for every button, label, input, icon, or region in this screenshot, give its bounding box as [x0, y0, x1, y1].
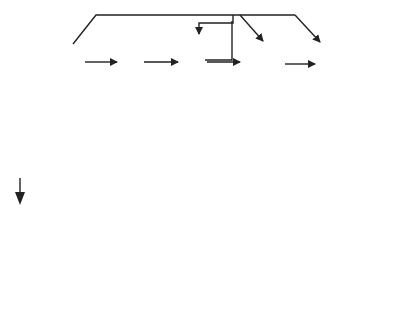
hippocampus-diagram: [0, 0, 394, 324]
connections: [73, 15, 320, 64]
left-axis: [15, 178, 25, 205]
auto-assoc-loop: [205, 21, 232, 60]
ec-to-ec4-arrow: [295, 15, 320, 42]
ec-to-ca3-arrow: [199, 15, 233, 34]
ec-to-ca1-arrow: [240, 15, 263, 41]
time-arrow-icon: [15, 192, 25, 205]
